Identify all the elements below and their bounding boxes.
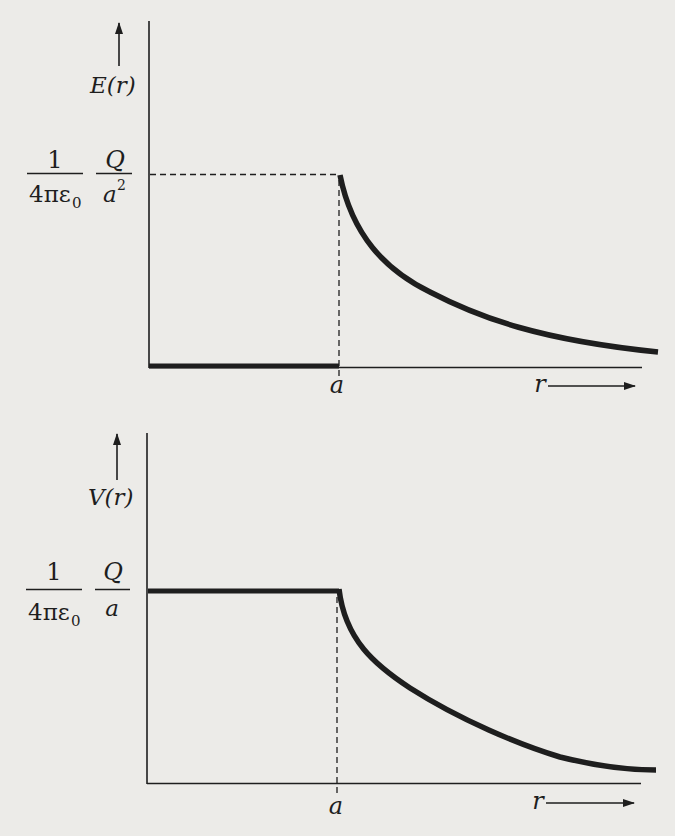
- svg-text:4πε: 4πε: [29, 181, 71, 207]
- svg-text:1: 1: [46, 558, 61, 586]
- svg-text:0: 0: [71, 612, 81, 630]
- figure: E(r) 1 4πε 0 Q a 2 a r V(r) 1: [0, 0, 675, 836]
- potential-chart: V(r) 1 4πε 0 Q a a r: [26, 433, 656, 820]
- svg-text:0: 0: [72, 194, 82, 212]
- e-x-label: r: [534, 370, 547, 398]
- e-y-label: E(r): [89, 72, 136, 98]
- e-decay-curve: [340, 175, 658, 352]
- e-value-label: 1 4πε 0 Q a 2: [27, 146, 132, 212]
- svg-text:Q: Q: [103, 558, 123, 586]
- v-y-label: V(r): [88, 484, 134, 510]
- svg-text:a: a: [105, 595, 119, 621]
- svg-text:2: 2: [117, 177, 126, 193]
- e-tick-a: a: [330, 371, 344, 399]
- v-decay-curve: [339, 589, 656, 770]
- v-value-label: 1 4πε 0 Q a: [26, 558, 130, 630]
- v-tick-a: a: [329, 792, 343, 820]
- v-x-label: r: [532, 787, 545, 815]
- svg-text:a: a: [103, 181, 117, 207]
- svg-text:1: 1: [47, 146, 62, 174]
- svg-text:Q: Q: [105, 146, 125, 174]
- e-field-chart: E(r) 1 4πε 0 Q a 2 a r: [27, 21, 658, 399]
- svg-text:4πε: 4πε: [28, 599, 70, 625]
